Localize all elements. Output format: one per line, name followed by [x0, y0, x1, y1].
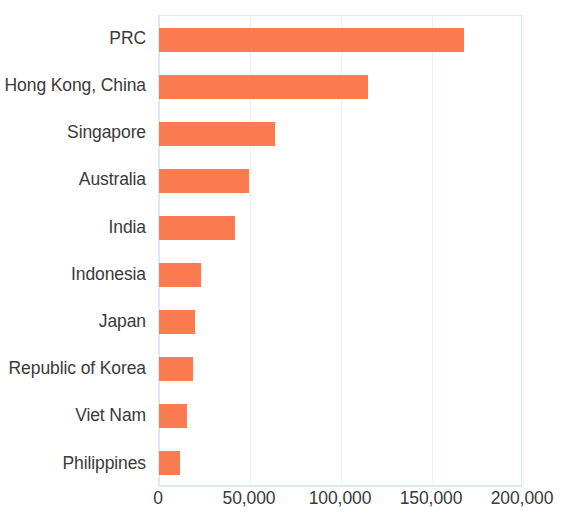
- bar: [159, 169, 249, 193]
- category-label: Republic of Korea: [9, 360, 152, 378]
- category-label-row: Viet Nam: [0, 393, 152, 440]
- value-axis-tick-label: 0: [153, 490, 163, 508]
- bar: [159, 216, 235, 240]
- bar-row: [159, 392, 521, 439]
- bar: [159, 451, 180, 475]
- bar-row: [159, 298, 521, 345]
- value-axis-tick-label: 150,000: [400, 490, 463, 508]
- category-label: India: [109, 219, 152, 237]
- bar: [159, 263, 201, 287]
- bar-row: [159, 63, 521, 110]
- bar-row: [159, 345, 521, 392]
- category-label-row: Republic of Korea: [0, 345, 152, 392]
- value-axis-tick-label: 200,000: [491, 490, 554, 508]
- bar: [159, 28, 464, 52]
- category-label-row: Australia: [0, 157, 152, 204]
- category-axis-labels: PRC Hong Kong, China Singapore Australia…: [0, 15, 152, 487]
- category-label: Hong Kong, China: [5, 77, 152, 95]
- bar-series: [159, 16, 521, 486]
- category-label: Viet Nam: [75, 407, 152, 425]
- bar-chart: PRC Hong Kong, China Singapore Australia…: [0, 0, 568, 515]
- category-label: Australia: [79, 171, 152, 189]
- bar-row: [159, 251, 521, 298]
- category-label-row: Singapore: [0, 109, 152, 156]
- gridline: [523, 16, 524, 486]
- bar: [159, 357, 193, 381]
- bar-row: [159, 16, 521, 63]
- bar: [159, 75, 368, 99]
- bar-row: [159, 110, 521, 157]
- category-label-row: Indonesia: [0, 251, 152, 298]
- plot-area: [158, 15, 522, 487]
- value-axis-tick-labels: 050,000100,000150,000200,000: [158, 490, 522, 515]
- category-label-row: Philippines: [0, 440, 152, 487]
- category-label-row: PRC: [0, 15, 152, 62]
- bar: [159, 122, 275, 146]
- value-axis-tick-label: 50,000: [223, 490, 276, 508]
- bar-row: [159, 204, 521, 251]
- category-label: Indonesia: [71, 266, 152, 284]
- bar-row: [159, 439, 521, 486]
- bar: [159, 404, 187, 428]
- category-label: Philippines: [62, 455, 152, 473]
- category-label-row: Hong Kong, China: [0, 62, 152, 109]
- bar: [159, 310, 195, 334]
- category-label-row: India: [0, 204, 152, 251]
- category-label-row: Japan: [0, 298, 152, 345]
- category-label: PRC: [109, 30, 152, 48]
- category-label: Japan: [99, 313, 152, 331]
- category-label: Singapore: [67, 124, 152, 142]
- bar-row: [159, 157, 521, 204]
- value-axis-tick-label: 100,000: [309, 490, 372, 508]
